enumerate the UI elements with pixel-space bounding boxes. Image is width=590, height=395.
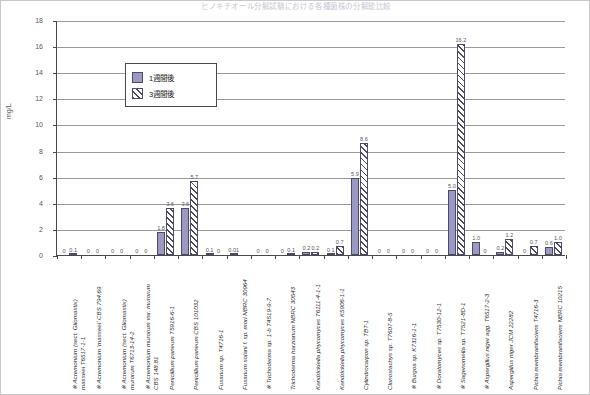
bar-group: 00: [130, 21, 154, 255]
plot-area: 00.10000001.83.63.65.70.100.010000.10.20…: [56, 21, 565, 256]
y-axis-tick-label: 0: [39, 252, 43, 259]
x-axis-category-label: Penicillium paneum T5916-6-1: [168, 259, 176, 390]
bar-value-label: 5.7: [187, 174, 201, 180]
bar-week3[interactable]: [166, 208, 174, 255]
x-axis-category-label: Kendrickiella phycomyces K5906-1-1: [338, 259, 346, 390]
x-axis-category-label: ※ Trichoderma sp. 1-b T4519-9-7: [265, 259, 273, 390]
bar-value-label: 1.0: [551, 235, 565, 241]
bar-value-label: 1.0: [469, 235, 483, 241]
x-axis-category-label: ※ Sagenomella sp. T7521-8D-1: [459, 259, 467, 390]
bar-group: 0.21.2: [493, 21, 517, 255]
y-axis-tick-label: 8: [39, 148, 43, 155]
bar-value-label: 0.1: [284, 247, 298, 253]
x-axis-category-label: ※ Acremonium (sect. Gliomastix)masseei T…: [71, 259, 86, 390]
bar-value-label: 0: [139, 248, 153, 254]
x-axis-category-label: Pichia membranifaciens T4716-3: [532, 259, 540, 390]
bar-group: 00: [105, 21, 129, 255]
bar-week1[interactable]: [157, 232, 165, 256]
legend-item-week1: 1週間後: [132, 69, 210, 85]
bar-value-label: 8.6: [357, 136, 371, 142]
bar-group: 00: [81, 21, 105, 255]
x-axis-category-label: ※ Doratomyces sp. T7530-12-1: [435, 259, 443, 390]
bar-week1[interactable]: [448, 190, 456, 255]
bar-group: 1.83.6: [154, 21, 178, 255]
chart-figure: ヒノキチオール分解試験における各種菌株の分解能比較 mg/L 024681012…: [0, 0, 590, 395]
x-axis-category-label: Fusarium sp. T4716-1: [217, 259, 225, 390]
bar-week3[interactable]: [287, 253, 295, 255]
bar-value-label: 0.2: [308, 245, 322, 251]
bar-value-label: 0: [478, 248, 492, 254]
x-axis-category-label: ※ Acremonium 'masseei' CBS 794.69: [95, 259, 103, 390]
bar-value-label: 16.2: [454, 37, 468, 43]
bar-week1[interactable]: [351, 178, 359, 255]
legend-item-week3: 3週間後: [132, 85, 210, 101]
bar-value-label: 1.2: [502, 232, 516, 238]
bar-week1[interactable]: [327, 253, 335, 255]
bar-value-label: 0: [90, 248, 104, 254]
bar-week3[interactable]: [69, 253, 77, 255]
y-axis-tick-label: 18: [35, 17, 43, 24]
x-axis-category-label: Clonostachys sp. T7607-8-5: [386, 259, 394, 390]
bar-week3[interactable]: [336, 246, 344, 255]
x-axis-tick: [566, 255, 567, 259]
bar-group: 00: [421, 21, 445, 255]
x-axis-category-label: Trichoderma harzianum NBRC 30543: [289, 259, 297, 390]
x-axis-category-label: Pichia membranifaciens NBRC 10215: [556, 259, 564, 390]
bar-group: 0.20.2: [299, 21, 323, 255]
bar-value-label: 0: [405, 248, 419, 254]
y-axis-tick-label: 6: [39, 174, 43, 181]
y-axis-tick-label: 16: [35, 43, 43, 50]
bar-value-label: 3.6: [163, 201, 177, 207]
bar-week3[interactable]: [457, 44, 465, 256]
y-axis-tick-label: 2: [39, 226, 43, 233]
bar-value-label: 0.01: [227, 247, 241, 253]
x-axis-category-labels: ※ Acremonium (sect. Gliomastix)masseei T…: [56, 259, 565, 393]
bar-value-label: 0.7: [333, 239, 347, 245]
bar-week3[interactable]: [505, 239, 513, 255]
bar-group: 0.61.0: [542, 21, 566, 255]
legend: 1週間後 3週間後: [125, 63, 217, 107]
x-axis-category-label: Aspergillus niger JCM 22282: [507, 259, 515, 390]
bar-series-container: 00.10000001.83.63.65.70.100.010000.10.20…: [57, 21, 565, 255]
bar-week1[interactable]: [545, 247, 553, 255]
bar-week3[interactable]: [311, 252, 319, 255]
x-axis-category-label: ※ Acremonium (sect. Gliomastix)murorum T…: [120, 259, 135, 390]
x-axis-category-label: Fusarium solani f. sp. mori NBRC 30964: [241, 259, 249, 390]
bar-value-label: 0.7: [527, 239, 541, 245]
y-axis-tick-label: 4: [39, 200, 43, 207]
x-axis-category-label: ※ Aspergillus niger agg. T6517-2-3: [483, 259, 491, 390]
bar-week3[interactable]: [554, 242, 562, 255]
legend-swatch-week1: [132, 72, 143, 83]
bar-week3[interactable]: [360, 143, 368, 255]
bar-group: 00.1: [57, 21, 81, 255]
bar-group: 0.01: [227, 21, 251, 255]
bar-week1[interactable]: [230, 253, 238, 255]
bar-group: 00.1: [275, 21, 299, 255]
bar-value-label: 0: [115, 248, 129, 254]
bar-week3[interactable]: [190, 181, 198, 255]
bar-value-label: 0: [430, 248, 444, 254]
bar-group: 0.10: [202, 21, 226, 255]
legend-label-week3: 3週間後: [149, 88, 174, 99]
x-axis-category-label: Cylindrocarpon sp. TBT-1: [362, 259, 370, 390]
bar-week1[interactable]: [496, 252, 504, 255]
legend-label-week1: 1週間後: [149, 72, 174, 83]
y-axis-tick-label: 12: [35, 95, 43, 102]
bar-group: 0.10.7: [324, 21, 348, 255]
x-axis-category-label: ※ Acremonium murorum var. murorumCBS 148…: [144, 259, 159, 390]
bar-group: 5.016.2: [445, 21, 469, 255]
bar-group: 3.65.7: [178, 21, 202, 255]
bar-group: 00: [251, 21, 275, 255]
bar-value-label: 0: [212, 248, 226, 254]
bar-value-label: 0: [381, 248, 395, 254]
y-axis-tick-label: 14: [35, 69, 43, 76]
bar-group: 00.7: [518, 21, 542, 255]
bar-week1[interactable]: [302, 252, 310, 255]
bar-group: 5.98.6: [348, 21, 372, 255]
bar-week1[interactable]: [181, 208, 189, 255]
legend-swatch-week3: [132, 88, 143, 99]
bar-group: 00: [372, 21, 396, 255]
bar-group: 00: [396, 21, 420, 255]
bar-week3[interactable]: [530, 246, 538, 255]
y-axis-tick-labels: 024681012141618: [1, 21, 51, 256]
